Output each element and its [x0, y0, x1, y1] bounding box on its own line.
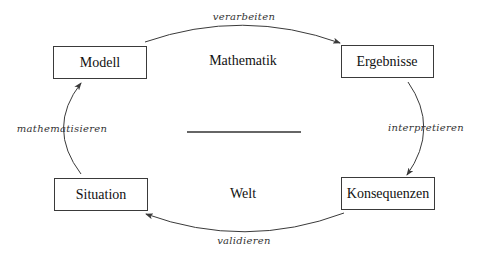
node-modell-label: Modell [80, 55, 121, 70]
edge-label-interpretieren: interpretieren [388, 122, 464, 133]
node-ergebnisse-label: Ergebnisse [356, 54, 417, 69]
diagram-svg: Mathematik Welt verarbeiten interpretier… [0, 0, 479, 256]
node-modell: Modell [54, 47, 147, 79]
node-situation: Situation [55, 179, 148, 211]
region-label-mathematik: Mathematik [209, 53, 277, 68]
node-ergebnisse: Ergebnisse [342, 46, 434, 78]
edge-verarbeiten [145, 25, 340, 43]
node-konsequenzen: Konsequenzen [342, 178, 435, 210]
node-situation-label: Situation [76, 187, 127, 202]
modeling-cycle-diagram: Mathematik Welt verarbeiten interpretier… [0, 0, 479, 256]
node-konsequenzen-label: Konsequenzen [347, 186, 429, 201]
edge-label-validieren: validieren [217, 235, 271, 246]
edge-label-mathematisieren: mathematisieren [17, 123, 107, 134]
edge-validieren [146, 213, 344, 232]
region-label-welt: Welt [230, 186, 256, 201]
edge-label-verarbeiten: verarbeiten [213, 11, 275, 22]
